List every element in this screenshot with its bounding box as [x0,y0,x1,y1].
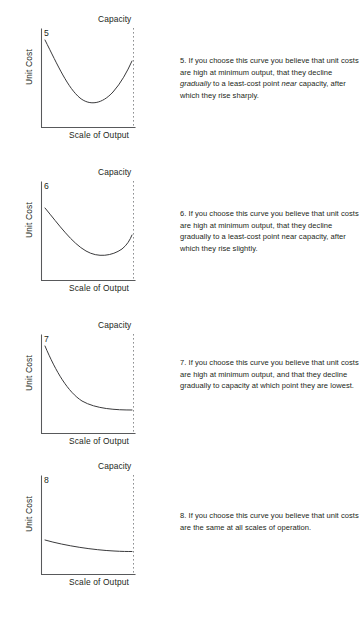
caption-7: 7. If you choose this curve you believe … [180,357,362,392]
caption-8: 8. If you choose this curve you believe … [180,510,362,533]
capacity-label-6: Capacity [98,167,131,177]
x-axis-label-5: Scale of Output [41,130,157,140]
y-axis-label-6: Unit Cost [24,190,34,250]
capacity-label-8: Capacity [98,461,131,471]
chart-6-curve [45,208,132,255]
chart-6-axes [42,182,136,281]
curve-number-6: 6 [44,181,49,191]
chart-5-axes [42,29,136,128]
caption-6: 6. If you choose this curve you believe … [180,208,362,255]
chart-6: Capacity 6 Unit Cost Scale of Output [18,167,168,307]
chart-8: Capacity 8 Unit Cost Scale of Output [18,461,168,601]
y-axis-label-7: Unit Cost [24,343,34,403]
y-axis-label-8: Unit Cost [24,484,34,544]
y-axis-label-5: Unit Cost [24,37,34,97]
figure-block-5: Capacity 5 Unit Cost Scale of Output 5. … [0,14,364,162]
chart-7-axes [42,335,136,434]
capacity-label-5: Capacity [98,14,131,24]
chart-8-curve [45,540,132,552]
caption-5: 5. If you choose this curve you believe … [180,55,362,102]
figure-block-7: Capacity 7 Unit Cost Scale of Output 7. … [0,320,364,468]
chart-5-curve [45,40,132,103]
curve-number-5: 5 [44,28,49,38]
chart-5: Capacity 5 Unit Cost Scale of Output [18,14,168,154]
chart-8-axes [42,476,136,575]
x-axis-label-7: Scale of Output [41,436,157,446]
x-axis-label-6: Scale of Output [41,283,157,293]
x-axis-label-8: Scale of Output [41,577,157,587]
figure-block-8: Capacity 8 Unit Cost Scale of Output 8. … [0,461,364,611]
chart-7-curve [45,346,132,410]
curve-number-8: 8 [44,475,49,485]
chart-7: Capacity 7 Unit Cost Scale of Output [18,320,168,460]
figure-block-6: Capacity 6 Unit Cost Scale of Output 6. … [0,167,364,315]
curve-number-7: 7 [44,334,49,344]
capacity-label-7: Capacity [98,320,131,330]
